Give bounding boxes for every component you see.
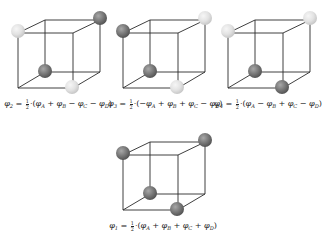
front-bottom-right-sphere-dark [170,202,184,216]
formula-term: φA [146,98,155,108]
front-top-left-sphere-dark [116,24,130,38]
formula-lhs: φ1 [109,220,118,230]
back-bottom-left-sphere-dark [143,186,157,200]
back-top-right-sphere-light [198,11,212,25]
formula-term: φC [78,98,88,108]
front-top-left-sphere-light [11,24,25,38]
back-bottom-left-sphere-dark [248,64,262,78]
cube-panel-phi3 [116,11,212,94]
front-bottom-right-sphere-light [65,80,79,94]
front-bottom-right-sphere-light [170,80,184,94]
formula-term: φD [309,98,319,108]
formula-term: φA [36,98,45,108]
formula-term: φB [57,98,66,108]
formula-term: φC [183,220,193,230]
back-top-right-sphere-dark [198,133,212,147]
one-half-fraction: 12 [130,99,133,110]
formula-phi3: φ3 = 12·(−φA + φB + φC − φD) [108,98,218,110]
formula-term: φA [141,220,150,230]
formula-term: φB [162,220,171,230]
one-half-fraction: 12 [131,221,134,232]
back-top-right-sphere-dark [93,11,107,25]
cube-panel-phi1 [116,133,212,216]
cube-panel-phi2 [11,11,107,94]
front-top-left-sphere-dark [116,146,130,160]
cube-diagram [0,0,330,248]
front-top-left-sphere-light [221,24,235,38]
back-bottom-left-sphere-dark [143,64,157,78]
formula-term: φC [188,98,198,108]
formula-phi2: φ2 = 12·(φA + φB − φC − φD) [3,98,113,110]
cube-panel-phi4 [221,11,317,94]
back-bottom-left-sphere-dark [38,64,52,78]
back-top-right-sphere-light [303,11,317,25]
formula-term: φA [246,98,255,108]
one-half-fraction: 12 [26,99,29,110]
formula-phi4: φ4 = 12·(φA − φB + φC − φD) [213,98,323,110]
formula-term: φB [267,98,276,108]
formula-term: φC [288,98,298,108]
formula-term: φD [204,220,214,230]
one-half-fraction: 12 [236,99,239,110]
formula-lhs: φ3 [108,98,117,108]
formula-lhs: φ2 [4,98,13,108]
formula-lhs: φ4 [214,98,223,108]
formula-term: φB [167,98,176,108]
formula-phi1: φ1 = 12·(φA + φB + φC + φD) [108,220,218,232]
front-bottom-right-sphere-dark [275,80,289,94]
